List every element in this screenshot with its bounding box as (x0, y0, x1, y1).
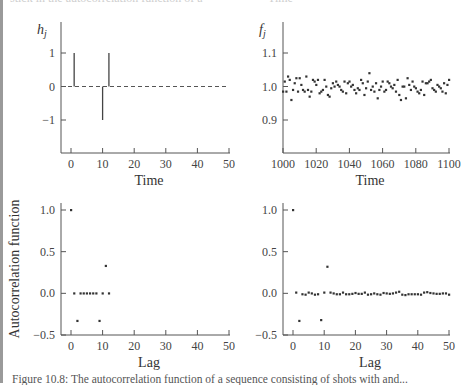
data-point (353, 89, 355, 91)
data-point (407, 77, 409, 79)
data-point (411, 80, 413, 82)
panel-acf-left: 1.00.50.0−0.501020304050LagAutocorrelati… (7, 200, 235, 370)
x-tick-label: 1040 (337, 157, 361, 171)
data-point (298, 320, 300, 322)
x-tick-label: 0 (290, 339, 296, 353)
data-point (376, 293, 378, 295)
data-point (105, 265, 107, 267)
y-tick-label: −0.5 (33, 328, 55, 342)
x-tick-label: 0 (68, 157, 74, 171)
data-point (70, 209, 72, 211)
data-point (330, 87, 332, 89)
data-point (358, 293, 360, 295)
y-tick-label: 1.0 (262, 203, 277, 217)
x-tick-label: 30 (381, 339, 393, 353)
y-tick-label: −0.5 (255, 328, 277, 342)
data-point (333, 86, 335, 88)
data-point (307, 89, 309, 91)
y-axis-label: Autocorrelation function (7, 200, 22, 339)
data-point (375, 82, 377, 84)
data-point (295, 292, 297, 294)
data-point (83, 292, 85, 294)
data-point (287, 75, 289, 77)
x-tick-label: 20 (128, 157, 140, 171)
data-point (393, 84, 395, 86)
data-point (292, 89, 294, 91)
y-tick-label: 0 (49, 80, 55, 94)
data-point (442, 292, 444, 294)
data-point (76, 320, 78, 322)
data-point (295, 77, 297, 79)
y-axis-label: fj (259, 22, 266, 39)
data-point (423, 292, 425, 294)
x-tick-label: 40 (412, 339, 424, 353)
data-point (333, 292, 335, 294)
data-point (338, 86, 340, 88)
y-tick-label: 0.0 (40, 286, 55, 300)
x-tick-label: 40 (191, 339, 203, 353)
y-tick-label: 0.9 (262, 113, 277, 127)
data-point (392, 87, 394, 89)
data-point (323, 292, 325, 294)
x-tick-label: 30 (160, 157, 172, 171)
data-point (385, 89, 387, 91)
data-point (420, 294, 422, 296)
data-point (372, 86, 374, 88)
data-point (382, 292, 384, 294)
data-point (343, 80, 345, 82)
data-point (294, 82, 296, 84)
x-tick-label: 40 (191, 157, 203, 171)
data-point (320, 319, 322, 321)
data-point (348, 293, 350, 295)
y-axis-label: hj (37, 22, 47, 39)
data-point (418, 92, 420, 94)
data-point (445, 92, 447, 94)
data-point (382, 80, 384, 82)
y-tick-label: 1.0 (40, 203, 55, 217)
data-point (367, 294, 369, 296)
data-point (414, 293, 416, 295)
x-tick-label: 0 (68, 339, 74, 353)
data-point (290, 99, 292, 101)
data-point (328, 96, 330, 98)
x-axis-label: Time (355, 173, 384, 188)
data-point (348, 80, 350, 82)
data-point (86, 292, 88, 294)
data-point (354, 292, 356, 294)
x-axis-label: Time (134, 173, 163, 188)
data-point (405, 97, 407, 99)
data-point (432, 292, 434, 294)
data-point (310, 91, 312, 93)
data-point (429, 292, 431, 294)
data-point (329, 292, 331, 294)
data-point (339, 293, 341, 295)
x-axis-label: Lag (359, 355, 381, 370)
y-tick-label: 1 (49, 46, 55, 60)
data-point (377, 97, 379, 99)
y-tick-label: 0.0 (262, 286, 277, 300)
data-point (352, 84, 354, 86)
data-point (309, 96, 311, 98)
data-point (421, 80, 423, 82)
x-tick-label: 1060 (371, 157, 395, 171)
data-point (370, 89, 372, 91)
data-point (364, 292, 366, 294)
data-point (98, 320, 100, 322)
panel-shot-series: 1.11.00.9100010201040106010801100Timefj (259, 22, 461, 188)
data-point (368, 72, 370, 74)
data-point (299, 77, 301, 79)
data-point (304, 294, 306, 296)
data-point (360, 79, 362, 81)
data-point (304, 91, 306, 93)
data-point (73, 292, 75, 294)
y-tick-label: 1.1 (262, 46, 277, 60)
data-point (398, 291, 400, 293)
x-tick-label: 50 (223, 339, 235, 353)
data-point (389, 293, 391, 295)
x-tick-label: 1000 (271, 157, 295, 171)
data-point (292, 209, 294, 211)
x-tick-label: 20 (128, 339, 140, 353)
data-point (89, 292, 91, 294)
data-point (335, 80, 337, 82)
